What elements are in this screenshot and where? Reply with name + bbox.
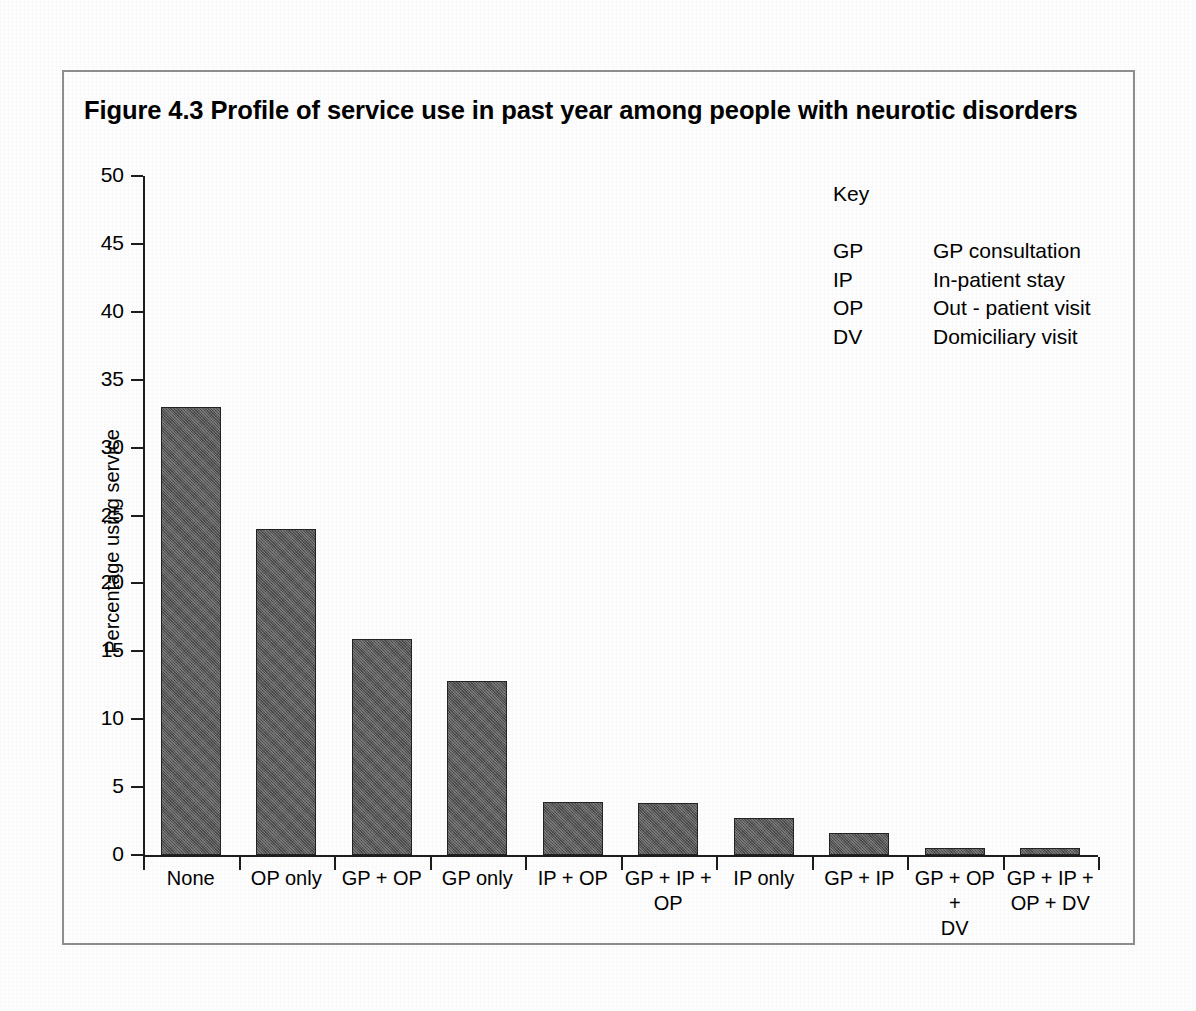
- key-abbreviation: OP: [833, 294, 933, 323]
- key-description: In-patient stay: [933, 266, 1091, 295]
- key-description: GP consultation: [933, 237, 1091, 266]
- key-abbreviation: IP: [833, 266, 933, 295]
- key-legend: Key GPGP consultationIPIn-patient stayOP…: [833, 182, 1091, 351]
- key-rows: GPGP consultationIPIn-patient stayOPOut …: [833, 237, 1091, 351]
- key-row: IPIn-patient stay: [833, 266, 1091, 295]
- key-description: Out - patient visit: [933, 294, 1091, 323]
- key-heading: Key: [833, 182, 1091, 206]
- key-abbreviation: GP: [833, 237, 933, 266]
- page-background: Figure 4.3 Profile of service use in pas…: [0, 0, 1196, 1011]
- key-row: OPOut - patient visit: [833, 294, 1091, 323]
- key-row: DVDomiciliary visit: [833, 323, 1091, 352]
- key-abbreviation: DV: [833, 323, 933, 352]
- key-description: Domiciliary visit: [933, 323, 1091, 352]
- key-row: GPGP consultation: [833, 237, 1091, 266]
- chart-title: Figure 4.3 Profile of service use in pas…: [84, 96, 1114, 125]
